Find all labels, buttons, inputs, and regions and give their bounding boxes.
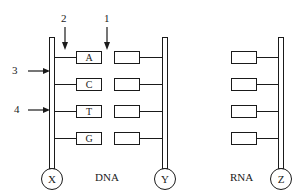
bond-line bbox=[257, 111, 278, 112]
base-box-empty bbox=[114, 78, 140, 91]
pointer-label-2: 2 bbox=[61, 12, 67, 24]
rna-base-box bbox=[231, 132, 257, 145]
bond-line bbox=[55, 57, 76, 58]
rna-backbone-z bbox=[278, 37, 284, 169]
base-box-c: C bbox=[76, 78, 102, 91]
rna-base-box bbox=[231, 51, 257, 64]
base-box-t: T bbox=[76, 105, 102, 118]
rna-base-box bbox=[231, 105, 257, 118]
bond-line bbox=[257, 138, 278, 139]
pointer-arrows bbox=[0, 0, 307, 196]
strand-label-x: X bbox=[41, 168, 63, 190]
dna-label: DNA bbox=[95, 171, 119, 183]
bond-line bbox=[55, 111, 76, 112]
pointer-label-3: 3 bbox=[12, 64, 18, 76]
strand-label-y: Y bbox=[154, 168, 176, 190]
pointer-label-4: 4 bbox=[14, 103, 20, 115]
pointer-label-1: 1 bbox=[104, 12, 110, 24]
base-box-empty bbox=[114, 105, 140, 118]
base-box-empty bbox=[114, 132, 140, 145]
base-box-g: G bbox=[76, 132, 102, 145]
rna-base-box bbox=[231, 78, 257, 91]
base-box-empty bbox=[114, 51, 140, 64]
bond-line bbox=[140, 111, 162, 112]
strand-label-z: Z bbox=[270, 168, 292, 190]
bond-line bbox=[140, 84, 162, 85]
dna-backbone-y bbox=[162, 37, 168, 169]
rna-label: RNA bbox=[230, 171, 253, 183]
bond-line bbox=[140, 138, 162, 139]
bond-line bbox=[55, 138, 76, 139]
bond-line bbox=[55, 84, 76, 85]
bond-line bbox=[140, 57, 162, 58]
bond-line bbox=[257, 84, 278, 85]
base-box-a: A bbox=[76, 51, 102, 64]
bond-line bbox=[257, 57, 278, 58]
